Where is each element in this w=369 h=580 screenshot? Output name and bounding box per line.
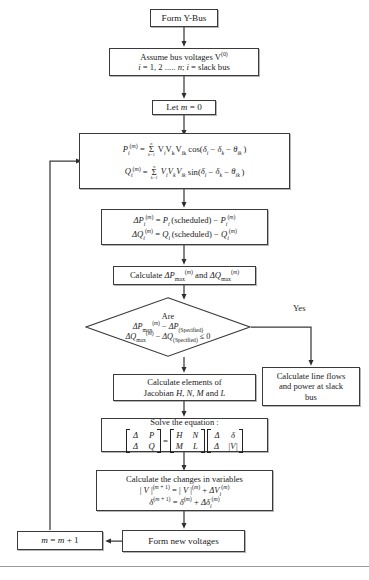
node-calculate-line-flows-line3: bus: [305, 392, 317, 402]
node-mismatch-equation-q: ΔQi(m) = Qi (scheduled) − Qi(m): [132, 229, 237, 239]
matrix-jacobian: HN ML: [170, 429, 205, 452]
node-solve-equation[interactable]: Solve the equation : ΔP ΔQ = HN ML: [101, 418, 268, 452]
matrix-rhs: Δδ Δ|V|: [207, 429, 243, 452]
flowchart-canvas: Form Y-Bus Assume bus voltages V(0) i = …: [0, 0, 369, 580]
node-calculate-jacobian-line1: Calculate elements of: [147, 377, 221, 387]
matrix-equation: ΔP ΔQ = HN ML Δδ Δ|V|: [126, 429, 243, 452]
node-calculate-max-mismatch[interactable]: Calculate ΔPmax(m) and ΔQmax(m): [113, 266, 256, 285]
node-calculate-line-flows-line2: and power at slack: [279, 381, 343, 391]
node-calculate-changes-line3: δ(m + 1) = δ(m) + Δδi(m): [149, 497, 219, 507]
node-calculate-jacobian[interactable]: Calculate elements of Jacobian H, N, M a…: [113, 374, 256, 401]
node-let-m-zero[interactable]: Let m = 0: [152, 100, 216, 115]
node-calculate-changes-line2: | V |(m + 1) = | V |(m) + ΔVi(m): [140, 485, 230, 495]
node-mismatch-equation-p: ΔPi(m) = Pi (scheduled) − Pi(m): [133, 215, 235, 225]
yes-branch-label: Yes: [293, 303, 306, 313]
node-calculate-jacobian-line2: Jacobian H, N, M and L: [144, 388, 225, 398]
node-let-m-zero-label: Let m = 0: [166, 102, 202, 113]
node-increment-m[interactable]: m = m + 1: [17, 531, 103, 550]
matrix-lhs: ΔP ΔQ: [126, 429, 161, 452]
node-calculate-changes-line1: Calculate the changes in variables: [126, 474, 243, 484]
node-form-new-voltages-label: Form new voltages: [148, 536, 218, 547]
node-form-y-bus[interactable]: Form Y-Bus: [150, 9, 218, 27]
node-convergence-decision[interactable]: Are ΔPmax(m) − ΔP(Specified) ΔQmax(m) − …: [85, 297, 251, 357]
matrix-equals: =: [163, 436, 168, 446]
node-power-equations[interactable]: Pi(m) = nΣk=1 ViVk Vik cos(δi − δk − θik…: [79, 133, 290, 189]
node-calculate-max-mismatch-label: Calculate ΔPmax(m) and ΔQmax(m): [130, 270, 239, 280]
node-power-equation-q: Qi(m) = nΣk=1 ViVk Vik sin(δi − δk − θik…: [125, 165, 245, 181]
node-assume-bus-voltages[interactable]: Assume bus voltages V(0) i = 1, 2 ..... …: [109, 48, 259, 76]
node-form-new-voltages[interactable]: Form new voltages: [122, 530, 245, 552]
node-form-y-bus-label: Form Y-Bus: [162, 13, 207, 24]
node-assume-bus-voltages-line1: Assume bus voltages V(0): [140, 52, 228, 62]
node-calculate-changes[interactable]: Calculate the changes in variables | V |…: [96, 470, 273, 511]
node-power-equation-p: Pi(m) = nΣk=1 ViVk Vik cos(δi − δk − θik…: [123, 142, 247, 158]
node-calculate-line-flows[interactable]: Calculate line flows and power at slack …: [262, 367, 360, 406]
node-assume-bus-voltages-line2: i = 1, 2 ..... n; i = slack bus: [138, 62, 230, 72]
node-solve-equation-heading: Solve the equation :: [150, 417, 219, 427]
node-calculate-line-flows-line1: Calculate line flows: [277, 371, 346, 381]
page-divider-rule: [0, 566, 369, 567]
node-mismatch-equations[interactable]: ΔPi(m) = Pi (scheduled) − Pi(m) ΔQi(m) =…: [101, 209, 268, 245]
node-increment-m-label: m = m + 1: [41, 535, 78, 546]
